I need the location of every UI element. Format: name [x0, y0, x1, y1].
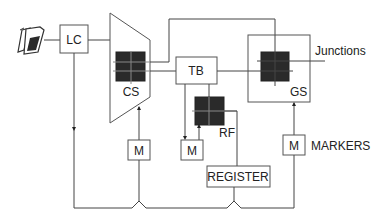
rf-label: RF: [219, 126, 235, 140]
marker-rf-label: M: [187, 144, 197, 158]
control-bus: [74, 201, 294, 208]
junctions-label: Junctions: [315, 44, 366, 58]
switching-system-diagram: LC CS TB Junctions GS RF M M RE: [0, 0, 382, 222]
lc-arrow-icon: [72, 127, 76, 131]
marker-gs-label: M: [289, 139, 299, 153]
gs-label: GS: [290, 85, 307, 99]
markers-label: MARKERS: [311, 139, 370, 153]
arrow-icon: [292, 102, 296, 106]
arrow-icon: [183, 136, 187, 140]
tb-label: TB: [188, 64, 203, 78]
register-label: REGISTER: [207, 170, 269, 184]
arrow-icon: [137, 106, 141, 110]
telephone-icon: [18, 27, 44, 54]
lc-label: LC: [66, 33, 82, 47]
marker-cs-label: M: [134, 144, 144, 158]
cs-label: CS: [123, 85, 140, 99]
